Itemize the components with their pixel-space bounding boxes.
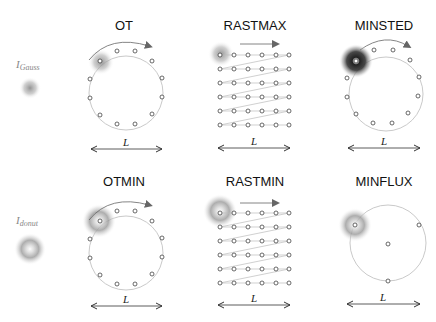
beam-label-gauss: IGauss xyxy=(15,58,40,72)
panel-rastmin: RASTMIN L xyxy=(203,174,291,305)
scale-label: L xyxy=(379,291,386,303)
panel-title: OTMIN xyxy=(103,174,145,189)
panel-rastmax: RASTMAX L xyxy=(208,18,291,148)
scale-label: L xyxy=(122,136,129,148)
raster-path xyxy=(220,55,289,125)
svg-text:Idonut: Idonut xyxy=(15,214,39,228)
panel-ot: OT L xyxy=(88,18,164,149)
scale-label: L xyxy=(380,135,387,147)
panel-title: RASTMAX xyxy=(224,18,287,33)
scan-points xyxy=(88,209,164,286)
panel-title: RASTMIN xyxy=(226,174,285,189)
panel-minflux: MINFLUX L xyxy=(338,174,426,304)
scan-points xyxy=(88,49,164,126)
gaussian-beam-icon xyxy=(19,77,41,99)
scale-label: L xyxy=(122,293,129,305)
donut-beam-icon xyxy=(14,233,46,265)
diagram-canvas: IGauss OT L RASTMAX xyxy=(0,0,436,322)
panel-otmin: OTMIN L xyxy=(82,174,164,306)
panel-title: OT xyxy=(115,18,133,33)
label-sub: donut xyxy=(20,219,39,228)
scale-label: L xyxy=(250,135,257,147)
svg-text:IGauss: IGauss xyxy=(15,58,40,72)
beam-label-donut: Idonut xyxy=(15,214,39,228)
panel-minsted: MINSTED L xyxy=(339,18,423,148)
panel-title: MINSTED xyxy=(355,18,414,33)
panel-title: MINFLUX xyxy=(355,174,412,189)
scale-label: L xyxy=(250,292,257,304)
label-sub: Gauss xyxy=(20,63,40,72)
